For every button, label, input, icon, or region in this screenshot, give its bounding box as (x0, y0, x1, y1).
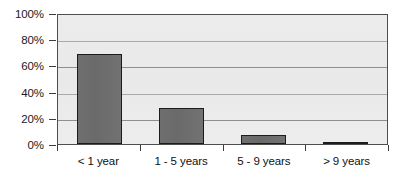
bars-layer (58, 15, 387, 144)
y-tick-mark-0 (49, 145, 56, 146)
y-tick-label-80: 80% (0, 34, 44, 46)
y-tick-label-0: 0% (0, 139, 44, 151)
x-tick-label-1-5-years: 1 - 5 years (140, 155, 223, 167)
x-tick-mark-2 (223, 145, 224, 151)
x-tick-label-5-9-years: 5 - 9 years (223, 155, 306, 167)
x-tick-mark-3 (305, 145, 306, 151)
y-tick-label-40: 40% (0, 87, 44, 99)
x-tick-label-gt-9-years: > 9 years (305, 155, 388, 167)
bar-lt-1-year (77, 54, 122, 144)
x-tick-label-lt-1-year: < 1 year (57, 155, 140, 167)
bar-5-9-years (241, 135, 286, 144)
x-tick-mark-0 (57, 145, 58, 151)
x-tick-mark-4 (388, 145, 389, 151)
y-tick-mark-80 (49, 40, 56, 41)
y-tick-label-100: 100% (0, 8, 44, 20)
y-tick-mark-20 (49, 119, 56, 120)
bar-chart-figure: 100% 80% 60% 40% 20% 0% < 1 year 1 - 5 y… (0, 0, 403, 179)
plot-area (57, 14, 388, 145)
y-tick-mark-100 (49, 14, 56, 15)
y-tick-label-60: 60% (0, 60, 44, 72)
x-tick-mark-1 (140, 145, 141, 151)
y-tick-label-20: 20% (0, 113, 44, 125)
bar-gt-9-years (323, 142, 368, 144)
y-tick-mark-60 (49, 66, 56, 67)
bar-1-5-years (159, 108, 204, 144)
y-tick-mark-40 (49, 93, 56, 94)
y-axis: 100% 80% 60% 40% 20% 0% (0, 0, 48, 179)
